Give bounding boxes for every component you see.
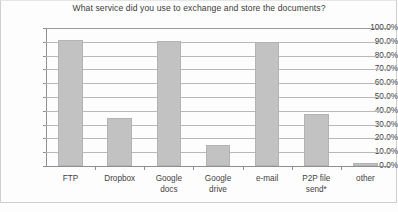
bar xyxy=(304,114,329,166)
x-axis-category-label: FTP xyxy=(46,174,95,185)
x-axis-tick-mark xyxy=(341,166,342,170)
gridline xyxy=(46,111,390,112)
gridline xyxy=(46,125,390,126)
bar xyxy=(157,41,182,166)
gridline xyxy=(46,56,390,57)
x-axis-category-label: e-mail xyxy=(243,174,292,185)
x-axis-tick-mark xyxy=(243,166,244,170)
chart-title: What service did you use to exchange and… xyxy=(0,3,398,13)
x-axis-tick-mark xyxy=(292,166,293,170)
gridline xyxy=(46,97,390,98)
gridline xyxy=(46,28,390,29)
bar xyxy=(206,145,231,166)
x-axis-tick-mark xyxy=(144,166,145,170)
gridline xyxy=(46,83,390,84)
bar-chart-figure: What service did you use to exchange and… xyxy=(0,0,398,212)
bar xyxy=(353,163,378,166)
gridline xyxy=(46,69,390,70)
gridline xyxy=(46,138,390,139)
x-axis-category-label: P2P file send* xyxy=(292,174,341,195)
bar xyxy=(255,42,280,166)
x-axis-category-label: Google drive xyxy=(193,174,242,195)
plot-area xyxy=(46,28,390,166)
x-axis-line xyxy=(46,166,390,167)
gridline xyxy=(46,42,390,43)
bar xyxy=(107,118,132,166)
bar xyxy=(58,40,83,166)
x-axis-category-label: Google docs xyxy=(144,174,193,195)
x-axis-category-label: Dropbox xyxy=(95,174,144,185)
x-axis-tick-mark xyxy=(193,166,194,170)
x-axis-tick-mark xyxy=(95,166,96,170)
x-axis-category-label: other xyxy=(341,174,390,185)
